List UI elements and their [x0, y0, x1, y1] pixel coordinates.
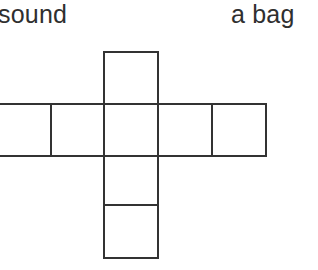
net-face-row-face-2	[51, 104, 104, 156]
net-face-row-face-5	[212, 104, 266, 156]
net-face-row-face-4	[158, 104, 212, 156]
net-face-bottom-square-lower	[104, 205, 158, 258]
net-face-row-face-1-clipped	[0, 104, 51, 156]
net-face-bottom-square-upper	[104, 156, 158, 205]
net-faces-group	[0, 52, 266, 258]
net-face-top-square	[104, 52, 158, 104]
cube-net-svg	[0, 0, 318, 270]
worksheet-page: sound a bag	[0, 0, 318, 270]
net-face-row-face-3-center	[104, 104, 158, 156]
cube-net-diagram	[0, 0, 318, 270]
